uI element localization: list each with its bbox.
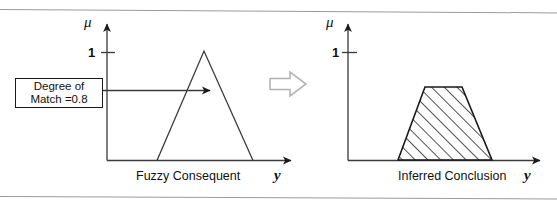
callout-line-1: Degree of <box>34 80 85 93</box>
callout-line-2: Match =0.8 <box>30 93 87 106</box>
block-arrow-right-icon <box>270 72 306 96</box>
inferred-conclusion-trapezoid <box>398 87 492 160</box>
right-panel-caption: Inferred Conclusion <box>398 170 506 183</box>
left-panel-axes <box>101 24 291 161</box>
left-panel-caption: Fuzzy Consequent <box>136 170 240 183</box>
left-y-tick-label: 1 <box>88 46 95 59</box>
left-triangle-membership <box>157 51 253 161</box>
figure-container: μ 1 Fuzzy Consequent y Degree of Match =… <box>0 0 557 206</box>
degree-of-match-callout: Degree of Match =0.8 <box>15 78 103 108</box>
left-x-axis-label: y <box>274 168 281 183</box>
right-y-tick-label: 1 <box>332 46 339 59</box>
right-y-axis-label: μ <box>326 15 334 30</box>
left-y-axis-label: μ <box>84 15 92 30</box>
right-x-axis-label: y <box>524 168 531 183</box>
